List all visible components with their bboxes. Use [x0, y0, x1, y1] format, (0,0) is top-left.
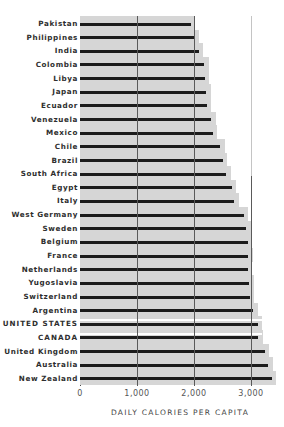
x-tick-label: 1,000 — [124, 389, 149, 398]
category-label: UNITED STATES — [3, 319, 78, 328]
calorie-bar-chart: PakistanPhilippinesIndiaColombiaLibyaJap… — [0, 0, 284, 427]
x-axis-label: DAILY CALORIES PER CAPITA — [80, 408, 280, 417]
bar — [80, 214, 244, 217]
category-label: Switzerland — [24, 292, 79, 301]
bar — [80, 186, 232, 189]
bar — [80, 200, 234, 203]
category-label: New Zealand — [19, 374, 78, 383]
category-label: Colombia — [36, 60, 78, 69]
category-label: Ecuador — [41, 101, 78, 110]
x-tick-label: 3,000 — [238, 389, 263, 398]
bar — [80, 296, 250, 299]
bar — [80, 104, 207, 107]
x-tick-label: 2,000 — [181, 389, 206, 398]
bar — [80, 50, 199, 53]
gridline — [194, 16, 195, 386]
bar — [80, 227, 246, 230]
category-label: Mexico — [46, 128, 78, 137]
bar — [80, 23, 191, 26]
category-label: Sweden — [43, 224, 78, 233]
bar — [80, 241, 248, 244]
bar — [80, 255, 248, 258]
category-label: CANADA — [38, 333, 78, 342]
category-label: West Germany — [12, 210, 78, 219]
category-label: Libya — [53, 74, 78, 83]
bar — [80, 323, 258, 326]
category-label: Egypt — [52, 183, 78, 192]
bar — [80, 336, 258, 339]
category-label: Brazil — [51, 156, 78, 165]
category-label: United Kingdom — [4, 347, 78, 356]
bar — [80, 268, 248, 271]
category-label: France — [47, 251, 78, 260]
bar — [80, 173, 226, 176]
bar — [80, 309, 253, 312]
bar — [80, 77, 205, 80]
category-label: Argentina — [32, 306, 78, 315]
category-label: Netherlands — [22, 265, 78, 274]
category-label: Chile — [55, 142, 78, 151]
gridline — [137, 16, 138, 386]
category-label: Yugoslavia — [29, 278, 78, 287]
bar — [80, 118, 211, 121]
bar — [80, 159, 223, 162]
category-label: Philippines — [27, 33, 78, 42]
bar — [80, 364, 268, 367]
category-label: Venezuela — [31, 115, 78, 124]
category-label: Belgium — [41, 237, 78, 246]
x-tick-label: 0 — [77, 389, 83, 398]
category-label: South Africa — [21, 169, 78, 178]
highlight-stripe — [80, 333, 262, 335]
bar — [80, 282, 249, 285]
category-label: India — [55, 46, 78, 55]
highlight-stripe — [80, 319, 262, 321]
gridline-3000-upper — [251, 16, 252, 176]
category-label: Australia — [36, 360, 78, 369]
category-label: Pakistan — [38, 19, 78, 28]
category-label: Japan — [52, 87, 78, 96]
category-label: Italy — [57, 196, 78, 205]
bar — [80, 63, 204, 66]
bar — [80, 377, 272, 380]
bar — [80, 145, 220, 148]
bar — [80, 91, 206, 94]
bar — [80, 350, 265, 353]
bar — [80, 132, 213, 135]
